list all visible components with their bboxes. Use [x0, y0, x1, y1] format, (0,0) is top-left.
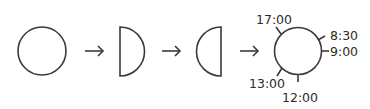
label-0900: 9:00	[330, 44, 358, 59]
tick-0830	[318, 36, 325, 40]
tick-1700	[276, 27, 281, 34]
arrow-right-icon	[240, 46, 258, 56]
full-circle-shape	[18, 27, 66, 75]
label-0830: 8:30	[330, 28, 358, 43]
arrow-right-icon	[85, 46, 103, 56]
label-1200: 12:00	[282, 90, 318, 105]
arrow-right-icon	[162, 46, 180, 56]
left-half-circle-shape	[196, 27, 221, 76]
label-1700: 17:00	[256, 12, 292, 27]
tick-1300	[277, 68, 282, 76]
label-1300: 13:00	[249, 76, 285, 91]
diagram-canvas: 17:00 8:30 9:00 13:00 12:00	[0, 0, 370, 109]
right-half-circle-shape	[120, 27, 145, 76]
clock-circle-shape	[275, 28, 322, 75]
